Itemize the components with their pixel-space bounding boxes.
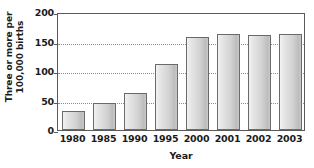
bar <box>62 111 85 130</box>
y-tick-label: 100 <box>28 67 54 77</box>
plot-area <box>57 13 305 131</box>
y-tick-mark <box>54 73 58 74</box>
bar <box>279 34 302 130</box>
y-tick-mark <box>54 44 58 45</box>
bar-chart-figure: Three or more per 100,000 births 0501001… <box>0 0 314 168</box>
bar-series <box>58 14 304 130</box>
bar <box>155 64 178 130</box>
bar <box>248 35 271 130</box>
x-tick-label: 2003 <box>270 133 310 144</box>
y-tick-label: 150 <box>28 38 54 48</box>
bar <box>217 34 240 130</box>
bar <box>93 103 116 130</box>
bar <box>124 93 147 130</box>
x-axis-title: Year <box>57 150 305 161</box>
y-tick-label: 200 <box>28 8 54 18</box>
y-axis-tick-labels: 050100150200 <box>0 0 54 168</box>
x-axis-tick-labels: 19801985199019952000200120022003 <box>57 133 305 147</box>
y-tick-label: 0 <box>28 126 54 136</box>
y-tick-label: 50 <box>28 97 54 107</box>
y-tick-mark <box>54 103 58 104</box>
bar <box>186 37 209 130</box>
y-tick-mark <box>54 14 58 15</box>
